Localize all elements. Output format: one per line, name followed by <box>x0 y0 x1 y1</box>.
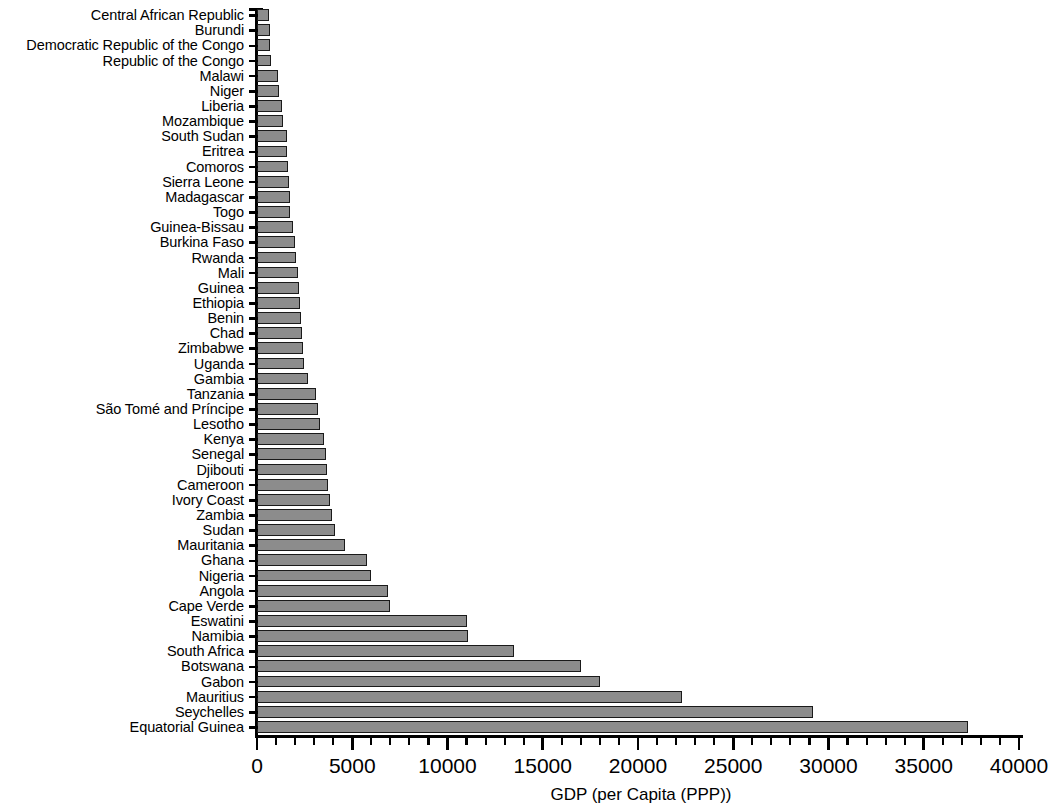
category-label: Benin <box>207 311 244 326</box>
bar <box>257 509 332 521</box>
y-axis-tick <box>249 241 258 244</box>
category-label: Chad <box>210 326 244 341</box>
y-axis-tick <box>249 226 258 229</box>
x-axis-tick-label: 20000 <box>609 754 667 778</box>
y-axis-tick <box>249 90 258 93</box>
category-label: Comoros <box>186 160 244 175</box>
bar <box>257 721 968 733</box>
bar <box>257 479 328 491</box>
x-axis-minor-tick <box>789 737 791 745</box>
y-axis-tick <box>249 347 258 350</box>
category-label: Democratic Republic of the Congo <box>26 38 244 53</box>
bar <box>257 9 269 21</box>
y-axis-tick <box>249 469 258 472</box>
x-axis-tick <box>637 737 640 750</box>
x-axis-minor-tick <box>885 737 887 745</box>
category-label: Madagascar <box>165 190 244 205</box>
y-axis-tick <box>249 257 258 260</box>
x-axis-minor-tick <box>465 737 467 745</box>
y-axis-tick <box>249 408 258 411</box>
category-label: Liberia <box>201 99 244 114</box>
bar <box>257 358 304 370</box>
x-axis-minor-tick <box>389 737 391 745</box>
y-axis-tick <box>249 514 258 517</box>
category-label: Zambia <box>196 508 244 523</box>
bar <box>257 448 326 460</box>
category-label: Sudan <box>203 523 244 538</box>
y-axis-tick <box>249 363 258 366</box>
category-label: Malawi <box>199 69 244 84</box>
plot-area <box>257 8 1047 735</box>
y-axis-tick <box>249 499 258 502</box>
bar <box>257 221 293 233</box>
y-axis-tick <box>249 681 258 684</box>
category-label: Djibouti <box>196 463 244 478</box>
category-label: Rwanda <box>191 251 244 266</box>
y-axis-tick <box>249 75 258 78</box>
category-label: Cape Verde <box>168 599 244 614</box>
bar <box>257 176 289 188</box>
category-label: Kenya <box>203 432 244 447</box>
x-axis-tick-label: 15000 <box>514 754 572 778</box>
category-label: Niger <box>210 84 244 99</box>
x-axis-minor-tick <box>751 737 753 745</box>
bar <box>257 130 287 142</box>
bar <box>257 524 335 536</box>
y-axis-tick <box>249 287 258 290</box>
bar <box>257 554 367 566</box>
bar <box>257 388 316 400</box>
category-label: South Sudan <box>161 129 244 144</box>
bar <box>257 373 308 385</box>
x-axis-minor-tick <box>313 737 315 745</box>
bar <box>257 39 270 51</box>
value-axis: GDP (per Capita (PPP)) 05000100001500020… <box>257 735 1047 804</box>
y-axis-tick <box>249 60 258 63</box>
bar <box>257 706 813 718</box>
x-axis-minor-tick <box>580 737 582 745</box>
x-axis-minor-tick <box>275 737 277 745</box>
category-label: Uganda <box>194 357 244 372</box>
x-axis-minor-tick <box>599 737 601 745</box>
bar <box>257 267 298 279</box>
x-axis-minor-tick <box>866 737 868 745</box>
bar <box>257 115 283 127</box>
x-axis-tick-label: 30000 <box>799 754 857 778</box>
y-axis-tick <box>249 605 258 608</box>
y-axis-tick <box>249 423 258 426</box>
bar <box>257 403 318 415</box>
category-label: Burkina Faso <box>160 235 244 250</box>
bar <box>257 570 371 582</box>
category-label: Gambia <box>194 372 244 387</box>
bar <box>257 691 682 703</box>
y-axis-tick <box>249 29 258 32</box>
x-axis-minor-tick <box>694 737 696 745</box>
y-axis-tick <box>249 196 258 199</box>
y-axis-tick <box>249 166 258 169</box>
x-axis-minor-tick <box>961 737 963 745</box>
x-axis-tick-label: 0 <box>251 754 263 778</box>
y-axis-tick <box>249 544 258 547</box>
category-label: São Tomé and Príncipe <box>96 402 244 417</box>
x-axis-minor-tick <box>770 737 772 745</box>
category-label: Burundi <box>195 23 244 38</box>
category-label: Central African Republic <box>91 8 244 23</box>
y-axis-tick <box>249 272 258 275</box>
y-axis-tick <box>249 438 258 441</box>
bar <box>257 24 270 36</box>
x-axis-title: GDP (per Capita (PPP)) <box>257 785 1025 804</box>
y-axis-tick <box>249 650 258 653</box>
category-label: Ivory Coast <box>172 493 244 508</box>
bar <box>257 433 324 445</box>
bar <box>257 418 320 430</box>
bar <box>257 585 388 597</box>
bar <box>257 206 290 218</box>
y-axis-tick <box>249 575 258 578</box>
category-label: Sierra Leone <box>162 175 244 190</box>
bar <box>257 464 327 476</box>
y-axis-tick <box>249 529 258 532</box>
category-label: Republic of the Congo <box>103 54 244 69</box>
category-label: Namibia <box>192 629 245 644</box>
category-axis-labels: Central African RepublicBurundiDemocrati… <box>0 8 250 735</box>
bar <box>257 70 278 82</box>
y-axis-tick <box>249 14 258 17</box>
